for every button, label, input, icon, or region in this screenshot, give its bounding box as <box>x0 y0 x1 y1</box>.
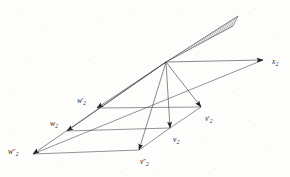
arrow-to-v2 <box>166 62 170 128</box>
connector-prime-row <box>97 107 201 108</box>
edge-v-chain-b <box>170 107 201 128</box>
label-x2: x2 <box>272 58 278 67</box>
label-w2: w2 <box>50 120 58 129</box>
texture-dot <box>176 14 177 15</box>
connector-dprime-row <box>33 150 139 154</box>
texture-dot <box>152 170 153 171</box>
label-v2-dprime: v″2 <box>140 158 149 167</box>
texture-dot <box>190 40 191 41</box>
connector-mid-row <box>67 128 170 131</box>
texture-dot <box>96 18 97 19</box>
figure-canvas <box>0 0 290 177</box>
texture-dot <box>62 166 63 167</box>
texture-dot <box>44 30 45 31</box>
texture-dot <box>18 12 19 13</box>
arrow-to-v2-dprime <box>139 62 166 150</box>
arrow-to-v2-prime <box>166 62 201 107</box>
vector-diagram-figure: x2v′2v2v″2w′2w2w″2 <box>0 0 290 177</box>
edge-v-chain-a <box>139 128 170 150</box>
label-v2: v2 <box>173 136 179 145</box>
texture-dot <box>205 140 206 141</box>
texture-dot <box>12 92 13 93</box>
hatched-cone <box>166 16 238 62</box>
texture-dot <box>28 60 29 61</box>
texture-dot <box>8 130 9 131</box>
texture-dot <box>255 8 256 9</box>
texture-dot <box>215 168 216 169</box>
texture-dot <box>133 8 134 9</box>
label-v2-prime: v′2 <box>205 115 212 124</box>
texture-dot <box>278 34 279 35</box>
label-w2-dprime: w″2 <box>8 148 19 157</box>
texture-dot <box>232 92 233 93</box>
arrow-to-x2 <box>166 60 263 62</box>
label-w2-prime: w′2 <box>77 97 86 106</box>
texture-dot <box>248 120 249 121</box>
texture-dot <box>88 60 89 61</box>
texture-dot <box>120 172 121 173</box>
texture-dot <box>266 150 267 151</box>
